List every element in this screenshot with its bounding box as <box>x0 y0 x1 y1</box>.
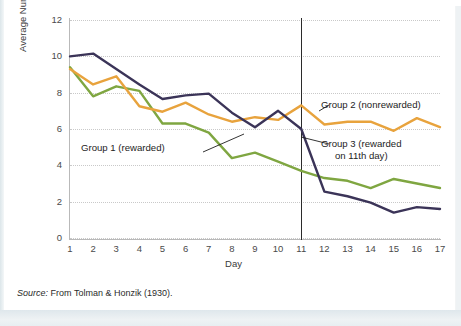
y-tick-label: 0 <box>40 232 62 243</box>
annotation-group-1: Group 1 (rewarded) <box>81 142 165 154</box>
figure-card: Average Number of Errors 024681012 12345… <box>3 0 455 310</box>
x-tick-label: 15 <box>385 243 403 254</box>
y-axis-label: Average Number of Errors <box>17 0 28 52</box>
x-tick-label: 1 <box>61 243 79 254</box>
gridline <box>70 238 440 239</box>
x-tick-label: 14 <box>362 243 380 254</box>
x-tick-label: 13 <box>339 243 357 254</box>
x-tick-label: 9 <box>246 243 264 254</box>
y-tick-label: 8 <box>40 87 62 98</box>
x-tick-label: 10 <box>269 243 287 254</box>
x-tick-label: 6 <box>177 243 195 254</box>
page-bottom-edge <box>0 310 461 326</box>
y-tick-label: 6 <box>40 123 62 134</box>
source-citation: From Tolman & Honzik (1930). <box>51 288 173 298</box>
page-left-edge <box>0 0 4 312</box>
y-tick-label: 4 <box>40 159 62 170</box>
plot-area: 024681012 <box>70 20 440 238</box>
x-tick-label: 5 <box>154 243 172 254</box>
figure-page: Average Number of Errors 024681012 12345… <box>0 0 461 326</box>
x-tick-label: 12 <box>315 243 333 254</box>
x-tick-label: 4 <box>130 243 148 254</box>
x-tick-label: 11 <box>292 243 310 254</box>
x-axis-label: Day <box>3 258 461 269</box>
y-tick-label: 10 <box>40 50 62 61</box>
y-tick-label: 2 <box>40 196 62 207</box>
annotation-group-3-line-2: on 11th day) <box>335 150 388 161</box>
x-tick-label: 16 <box>408 243 426 254</box>
source-note: Source: From Tolman & Honzik (1930). <box>17 288 172 298</box>
x-tick-label: 2 <box>84 243 102 254</box>
annotation-group-3: Group 3 (rewarded on 11th day) <box>321 138 402 161</box>
x-tick-label: 3 <box>107 243 125 254</box>
x-tick-label: 8 <box>223 243 241 254</box>
annotation-leader-lines <box>70 20 440 238</box>
x-axis-line <box>69 239 441 240</box>
cropped-title-sliver <box>3 0 461 6</box>
source-label: Source: <box>17 288 48 298</box>
annotation-group-3-line-1: Group 3 (rewarded <box>321 138 402 149</box>
x-tick-label: 17 <box>431 243 449 254</box>
annotation-group-2: Group 2 (nonrewarded) <box>321 99 421 111</box>
x-tick-label: 7 <box>200 243 218 254</box>
y-tick-label: 12 <box>40 14 62 25</box>
